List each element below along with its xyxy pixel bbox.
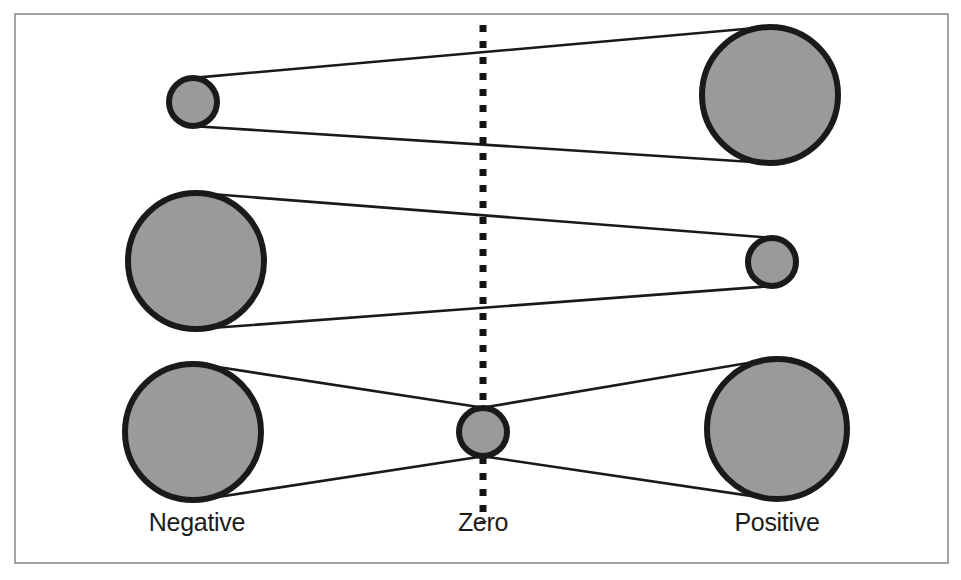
circle-node-bot-center[interactable]	[459, 408, 507, 456]
circle-node-top-left[interactable]	[169, 78, 217, 126]
axis-label-positive: Positive	[734, 508, 819, 536]
circle-node-top-right[interactable]	[702, 27, 838, 163]
axis-label-negative: Negative	[149, 508, 245, 536]
circle-node-mid-right[interactable]	[748, 238, 796, 286]
diagram-canvas: NegativeZeroPositive	[0, 0, 961, 580]
circle-node-bot-left[interactable]	[125, 364, 261, 500]
circle-node-bot-right[interactable]	[707, 359, 847, 499]
circle-node-mid-left[interactable]	[128, 193, 264, 329]
figure-root: NegativeZeroPositive	[0, 0, 961, 580]
axis-label-zero: Zero	[458, 508, 508, 536]
